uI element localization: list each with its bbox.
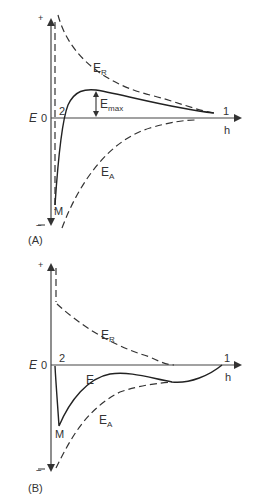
y-axis-label: E [29,358,38,372]
y-axis-label: E [29,111,38,125]
total-energy-curve [55,365,222,426]
emax-arrow-down-icon [93,111,99,117]
h-axis-label: h [224,124,230,136]
energy-diagram: + − E 0 2 1 h M ER EA Emax (A) + − E 0 2… [0,0,258,502]
panel-caption: (B) [28,482,43,494]
zero-label: 0 [41,112,47,124]
plus-sign: + [38,260,43,270]
panel-b: + − E 0 2 1 h M ER EA E (B) [28,260,240,494]
h-axis-label: h [225,371,231,383]
minus-sign: − [36,465,42,476]
repulsion-label: ER [93,61,107,77]
minimum-label: M [55,428,64,440]
minimum-label: M [54,205,63,217]
panel-a: + − E 0 2 1 h M ER EA Emax (A) [28,13,240,246]
emax-label: Emax [100,97,123,113]
repulsion-curve [57,304,174,365]
plus-sign: + [38,13,43,23]
minus-sign: − [36,220,42,231]
emax-arrow-up-icon [93,91,99,97]
point-1-label: 1 [224,352,230,364]
attraction-label: EA [99,413,113,429]
total-energy-label: E [86,373,94,387]
repulsion-label: ER [101,328,115,344]
point-2-label: 2 [59,352,65,364]
point-2-label: 2 [59,105,65,117]
zero-label: 0 [41,359,47,371]
point-1-label: 1 [223,105,229,117]
attraction-label: EA [101,165,115,181]
panel-caption: (A) [28,234,43,246]
